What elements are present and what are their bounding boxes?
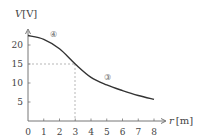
x-tick-label: 4 [88, 127, 94, 137]
potential-curve [28, 36, 154, 100]
x-tick-label: 7 [135, 127, 141, 137]
region-label-4: ④ [50, 30, 57, 39]
x-tick-label: 3 [72, 127, 78, 137]
y-axis-label: V[V] [15, 8, 37, 19]
x-tick-label: 1 [41, 127, 47, 137]
y-tick-label: 20 [12, 40, 24, 50]
x-tick-label: 0 [25, 127, 31, 137]
x-tick-label: 8 [151, 127, 157, 137]
x-tick-label: 5 [104, 127, 110, 137]
potential-vs-distance-chart: 012345678 5101520 V[V] r[m] ④ ③ [0, 0, 201, 140]
y-tick-label: 10 [12, 78, 24, 88]
y-tick-label: 5 [17, 97, 23, 107]
region-label-3: ③ [104, 73, 111, 82]
x-tick-label: 2 [57, 127, 63, 137]
x-tick-label: 6 [120, 127, 126, 137]
x-axis-label: r[m] [169, 115, 193, 126]
y-tick-label: 15 [12, 59, 24, 69]
